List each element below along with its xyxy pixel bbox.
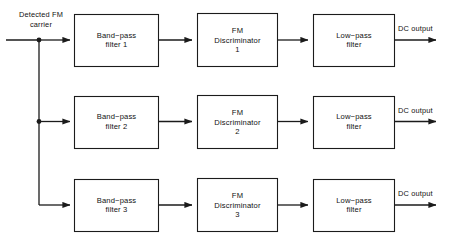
lowpass-filter-2-label-line2: filter (346, 122, 362, 131)
lowpass-filter-1-label-line1: Low−pass (336, 31, 372, 40)
fm-discriminator-1-label-line1: FM (232, 26, 243, 35)
bandpass-filter-1-label-line1: Band−pass (97, 31, 137, 40)
bandpass-filter-2-label-line2: filter 2 (106, 122, 128, 131)
fm-discriminator-2-label-line1: FM (232, 108, 243, 117)
lowpass-filter-1-label-line2: filter (346, 40, 362, 49)
bandpass-filter-1-label-line2: filter 1 (106, 40, 128, 49)
fm-discriminator-3-label-line1: FM (232, 191, 243, 200)
dc-output-label-2: DC output (398, 106, 433, 115)
lowpass-filter-2-label-line1: Low−pass (336, 112, 372, 121)
fm-discriminator-2-label-line2: Discriminator (214, 118, 261, 127)
dc-output-label-1: DC output (398, 24, 433, 33)
signal-row-1: Band−pass filter 1 FM Discriminator 1 Lo… (39, 14, 436, 67)
input-label-line2: carrier (30, 20, 52, 29)
dc-output-label-3: DC output (398, 189, 433, 198)
fm-discriminator-3-label-line3: 3 (235, 210, 239, 219)
bandpass-filter-3-label-line1: Band−pass (97, 196, 137, 205)
input-label: Detected FM carrier (19, 10, 63, 29)
fm-discriminator-1-label-line3: 1 (235, 45, 239, 54)
fm-discriminator-1-label-line2: Discriminator (214, 36, 261, 45)
fm-block-diagram: Detected FM carrier Band−pass filter 1 F… (0, 0, 449, 243)
signal-row-3: Band−pass filter 3 FM Discriminator 3 Lo… (47, 179, 436, 232)
input-label-line1: Detected FM (19, 10, 63, 19)
bandpass-filter-2-label-line1: Band−pass (97, 112, 137, 121)
bandpass-filter-3-label-line2: filter 3 (106, 205, 128, 214)
fm-discriminator-3-label-line2: Discriminator (214, 201, 261, 210)
fm-discriminator-2-label-line3: 2 (235, 127, 239, 136)
lowpass-filter-3-label-line1: Low−pass (336, 196, 372, 205)
signal-row-2: Band−pass filter 2 FM Discriminator 2 Lo… (39, 96, 436, 149)
lowpass-filter-3-label-line2: filter (346, 205, 362, 214)
